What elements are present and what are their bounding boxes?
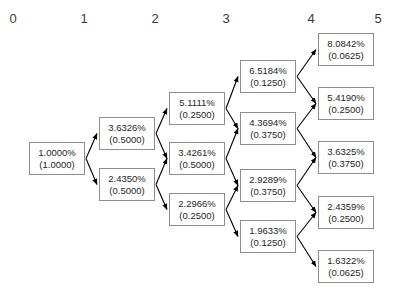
node-probability: (0.5000) bbox=[109, 134, 144, 146]
node-rate: 1.6322% bbox=[327, 255, 365, 267]
tree-node-4-4: 1.6322%(0.0625) bbox=[318, 250, 374, 283]
node-rate: 2.4350% bbox=[108, 173, 146, 185]
tree-node-4-0: 8.0842%(0.0625) bbox=[318, 33, 374, 66]
tree-node-3-3: 1.9633%(0.1250) bbox=[240, 220, 296, 253]
tree-edge-2-0-to-3-1 bbox=[226, 109, 238, 129]
node-rate: 3.6326% bbox=[108, 122, 146, 134]
column-header-5: 5 bbox=[368, 12, 388, 26]
tree-edge-3-1-to-4-2 bbox=[297, 129, 316, 158]
tree-edge-3-2-to-4-3 bbox=[297, 186, 316, 213]
node-rate: 4.3694% bbox=[249, 117, 287, 129]
column-header-2: 2 bbox=[145, 12, 165, 26]
column-header-4: 4 bbox=[301, 12, 321, 26]
node-probability: (0.0625) bbox=[328, 50, 363, 62]
tree-edge-1-1-to-2-2 bbox=[156, 185, 167, 210]
tree-node-2-0: 5.1111%(0.2500) bbox=[169, 92, 225, 125]
column-header-3: 3 bbox=[216, 12, 236, 26]
node-probability: (0.3750) bbox=[250, 129, 285, 141]
node-probability: (1.0000) bbox=[39, 159, 74, 171]
node-probability: (0.2500) bbox=[328, 104, 363, 116]
node-probability: (0.5000) bbox=[109, 185, 144, 197]
tree-edge-3-0-to-4-1 bbox=[297, 77, 316, 104]
node-rate: 3.6325% bbox=[327, 146, 365, 158]
tree-node-3-1: 4.3694%(0.3750) bbox=[240, 112, 296, 145]
tree-edge-2-0-to-3-0 bbox=[226, 77, 238, 109]
tree-edge-3-3-to-4-4 bbox=[297, 237, 316, 267]
tree-node-2-1: 3.4261%(0.5000) bbox=[169, 142, 225, 175]
tree-node-0-0: 1.0000%(1.0000) bbox=[29, 142, 85, 175]
node-rate: 1.9633% bbox=[249, 225, 287, 237]
column-header-0: 0 bbox=[3, 12, 23, 26]
tree-edge-1-0-to-2-1 bbox=[156, 134, 167, 159]
binomial-tree-diagram: 012345 1.0000%(1.0000)3.6326%(0.5000)2.4… bbox=[0, 0, 393, 296]
tree-edge-3-0-to-4-0 bbox=[297, 50, 316, 77]
tree-node-4-3: 2.4359%(0.2500) bbox=[318, 196, 374, 229]
tree-edge-3-1-to-4-1 bbox=[297, 104, 316, 129]
tree-edge-3-3-to-4-3 bbox=[297, 213, 316, 237]
tree-edge-2-2-to-3-2 bbox=[226, 186, 238, 210]
node-rate: 2.4359% bbox=[327, 201, 365, 213]
tree-edge-2-1-to-3-1 bbox=[226, 129, 238, 159]
tree-edge-1-0-to-2-0 bbox=[156, 109, 167, 134]
tree-edge-3-2-to-4-2 bbox=[297, 158, 316, 186]
node-probability: (0.1250) bbox=[250, 237, 285, 249]
node-probability: (0.3750) bbox=[328, 158, 363, 170]
node-rate: 5.1111% bbox=[179, 97, 214, 109]
tree-node-4-1: 5.4190%(0.2500) bbox=[318, 87, 374, 120]
node-rate: 6.5184% bbox=[249, 65, 287, 77]
node-probability: (0.0625) bbox=[328, 267, 363, 279]
node-probability: (0.2500) bbox=[179, 210, 214, 222]
node-probability: (0.5000) bbox=[179, 159, 214, 171]
node-rate: 5.4190% bbox=[327, 92, 365, 104]
node-rate: 2.9289% bbox=[249, 174, 287, 186]
tree-node-3-2: 2.9289%(0.3750) bbox=[240, 169, 296, 202]
node-probability: (0.2500) bbox=[179, 109, 214, 121]
node-rate: 2.2966% bbox=[178, 198, 216, 210]
tree-edge-1-1-to-2-1 bbox=[156, 159, 167, 185]
tree-edge-2-2-to-3-3 bbox=[226, 210, 238, 237]
tree-edge-2-1-to-3-2 bbox=[226, 159, 238, 186]
node-probability: (0.2500) bbox=[328, 213, 363, 225]
node-probability: (0.1250) bbox=[250, 77, 285, 89]
tree-node-1-0: 3.6326%(0.5000) bbox=[99, 117, 155, 150]
tree-edge-0-0-to-1-1 bbox=[86, 159, 97, 185]
tree-node-1-1: 2.4350%(0.5000) bbox=[99, 168, 155, 201]
node-rate: 8.0842% bbox=[327, 38, 365, 50]
tree-node-3-0: 6.5184%(0.1250) bbox=[240, 60, 296, 93]
node-probability: (0.3750) bbox=[250, 186, 285, 198]
node-rate: 3.4261% bbox=[178, 147, 216, 159]
tree-node-2-2: 2.2966%(0.2500) bbox=[169, 193, 225, 226]
column-header-1: 1 bbox=[74, 12, 94, 26]
tree-node-4-2: 3.6325%(0.3750) bbox=[318, 141, 374, 174]
node-rate: 1.0000% bbox=[38, 147, 76, 159]
tree-edge-0-0-to-1-0 bbox=[86, 134, 97, 159]
